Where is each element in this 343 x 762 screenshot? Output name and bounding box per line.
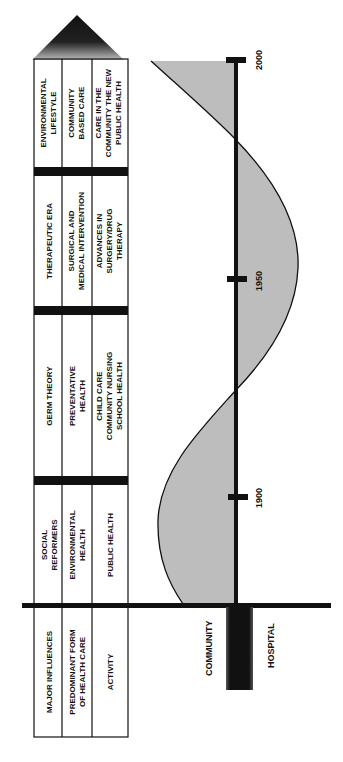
timeline-arrow-head [32,15,124,60]
era2-activity-l1: CHILD CARE [95,371,104,421]
era3-activity-l2: SURGERY/DRUG [105,208,114,273]
era2-form-l2: HEALTH [78,380,87,412]
era-2: GERM THEORY PREVENTATIVE HEALTH CHILD CA… [45,352,124,440]
era4-activity-l2: COMMUNITY THE NEW [104,68,113,157]
community-label: COMMUNITY [204,621,214,677]
hospital-bar [226,607,253,690]
timeline-axis [234,60,238,606]
era2-activity-l2: COMMUNITY NURSING [105,352,114,440]
era1-influence-l1: SOCIAL [40,530,49,560]
row-header-activity: ACTIVITY [106,653,115,690]
era-divider-3 [34,476,128,485]
tick-2000 [226,57,246,63]
baseline-axis [22,603,331,608]
tick-1950 [227,276,247,282]
era3-form-l2: MEDICAL INTERVENTION [77,192,86,290]
era1-form-l2: HEALTH [78,529,87,561]
era4-activity-l1: CARE IN THE [94,87,103,139]
era-1: SOCIAL REFORMERS ENVIRONMENTAL HEALTH PU… [40,510,115,579]
era-3: THERAPEUTIC ERA SURGICAL AND MEDICAL INT… [45,192,124,290]
tick-label-1900: 1900 [254,488,264,508]
era3-activity-l3: THERAPY [115,221,124,260]
era1-influence-l2: REFORMERS [50,519,59,571]
era4-activity-l3: PUBLIC HEALTH [114,81,123,145]
era1-form-l1: ENVIRONMENTAL [68,510,77,579]
era3-form-l1: SURGICAL AND [67,210,76,271]
era4-form-l1: COMMUNITY [67,88,76,138]
tick-1900 [228,494,248,500]
row-header-major-influences: MAJOR INFLUENCES [45,630,54,713]
tick-label-2000: 2000 [254,50,264,70]
era2-activity-l3: SCHOOL HEALTH [115,362,124,430]
tick-label-1950: 1950 [254,271,264,291]
era4-influence-l1: ENVIRONMENTAL [39,78,48,147]
row-headers: MAJOR INFLUENCES PREDOMINANT FORM OF HEA… [45,629,115,715]
era2-form-l1: PREVENTATIVE [68,365,77,426]
era4-influence-l2: LIFESTYLE [49,91,58,135]
row-header-form-line2: OF HEALTH CARE [78,636,87,707]
era4-form-l2: BASED CARE [77,86,86,140]
era3-influence-l1: THERAPEUTIC ERA [45,203,54,279]
era-divider-1 [34,167,128,176]
health-care-evolution-diagram: 2000 1950 1900 COMMUNITY HOSPITAL MAJOR … [0,0,343,762]
hospital-label: HOSPITAL [266,623,276,668]
era-divider-2 [34,306,128,315]
era2-influence-l1: GERM THEORY [45,366,54,426]
era-4: ENVIRONMENTAL LIFESTYLE COMMUNITY BASED … [39,68,123,157]
community-hospital-wave [151,61,298,604]
era3-activity-l1: ADVANCES IN [95,214,104,269]
row-header-form-line1: PREDOMINANT FORM [68,629,77,715]
era1-activity-l1: PUBLIC HEALTH [106,513,115,577]
